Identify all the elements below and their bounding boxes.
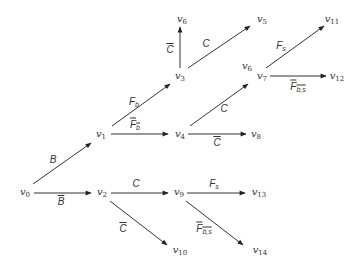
node-v1: v1 [96, 129, 106, 141]
node-label-subscript: 11 [330, 18, 339, 26]
node-label-subscript: 9 [180, 191, 184, 199]
node-label-subscript: 7 [263, 75, 267, 83]
edge-label-v9-v14: Fb,s [196, 224, 211, 235]
edge-label-v4-v8: C [213, 138, 220, 148]
edge-label-v0-v1: B [50, 155, 57, 165]
node-label-subscript: 0 [26, 191, 30, 199]
edge-v9-v14 [186, 201, 243, 245]
edge-label-main: B [50, 154, 57, 165]
node-label-subscript: 8 [257, 133, 261, 141]
edge-label-main: C [119, 223, 126, 234]
node-v9: v9 [174, 187, 184, 199]
node-v5: v5 [257, 14, 267, 26]
edge-label-main: C [132, 178, 139, 189]
node-label-subscript: 2 [103, 191, 107, 199]
edge-label-v0-v2: B [58, 197, 65, 207]
node-v10: v10 [173, 245, 188, 257]
edge-label-main: C [213, 137, 220, 148]
node-v7: v7 [257, 71, 267, 83]
edge-label-subscript: s [215, 183, 219, 190]
edge-label-v9-v13: Fs [209, 179, 219, 190]
edge-label-main: C [202, 38, 209, 49]
edge-label-v1-v4: Fb [130, 120, 140, 131]
node-v6a: v6 [177, 14, 187, 26]
edge-label-subscript: b,s [202, 228, 211, 235]
edge-label-subscript: s [282, 45, 286, 52]
edge-v1-v3 [112, 84, 170, 126]
node-v3: v3 [175, 71, 185, 83]
edge-label-subscript: b [135, 101, 139, 108]
edge-label-v7-v12: Fb,s [290, 82, 305, 93]
node-v6b: v6 [242, 61, 252, 73]
node-label-subscript: 13 [257, 191, 266, 199]
edge-v4-v6b [190, 84, 248, 126]
edge-label-v2-v9: C [132, 179, 139, 189]
edge-v0-v1 [33, 143, 91, 184]
node-v14: v14 [253, 245, 268, 257]
edge-label-main: B [58, 196, 65, 207]
node-label-subscript: 14 [258, 249, 267, 257]
node-v11: v11 [325, 14, 340, 26]
edge-label-main: C [166, 44, 173, 55]
edge-v3-v5 [188, 26, 250, 68]
node-label-subscript: 10 [178, 249, 187, 257]
edge-label-v3-v5: C [202, 39, 209, 49]
edge-label-main: C [220, 103, 227, 114]
node-label-subscript: 6 [248, 65, 252, 73]
edge-label-v4-v6b: C [220, 104, 227, 114]
node-v0: v0 [20, 187, 30, 199]
edge-label-v3-v6a: C [166, 45, 173, 55]
edge-label-v1-v3: Fb [129, 97, 139, 108]
edge-label-subscript: b [136, 124, 140, 131]
edge-label-subscript: b,s [296, 86, 305, 93]
edge-v7-v11 [266, 26, 324, 68]
edge-label-v2-v10: C [119, 224, 126, 234]
node-v13: v13 [252, 187, 267, 199]
node-label-subscript: 3 [181, 75, 185, 83]
node-label-subscript: 1 [102, 133, 106, 141]
node-v2: v2 [97, 187, 107, 199]
edge-label-v7-v11: Fs [276, 41, 286, 52]
node-label-subscript: 6 [183, 18, 187, 26]
node-label-subscript: 12 [335, 75, 344, 83]
node-label-subscript: 5 [263, 18, 267, 26]
node-label-subscript: 4 [181, 133, 185, 141]
node-v4: v4 [175, 129, 185, 141]
node-v8: v8 [251, 129, 261, 141]
node-v12: v12 [330, 71, 345, 83]
